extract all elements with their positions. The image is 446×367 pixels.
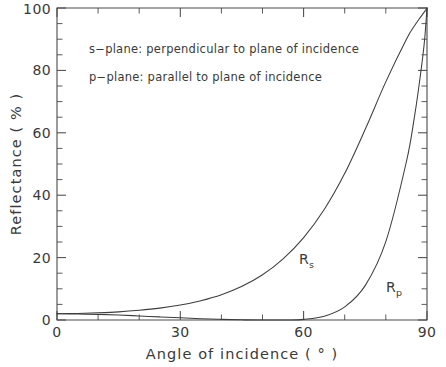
curve-label-rs-base: R	[299, 251, 309, 267]
y-tick-label-0: 0	[42, 312, 51, 328]
y-tick-label-40: 40	[32, 187, 51, 203]
annotation-p-plane: p−plane: parallel to plane of incidence	[89, 70, 322, 84]
x-tick-label-0: 0	[52, 324, 61, 340]
y-axis-tick-labels: 0 20 40 60 80 100	[23, 1, 51, 328]
x-tick-label-90: 90	[418, 324, 437, 340]
curve-label-rs-sub: s	[309, 259, 314, 270]
x-tick-label-60: 60	[294, 324, 313, 340]
curve-label-rs: R s	[299, 251, 314, 270]
x-axis-title: Angle of incidence ( ° )	[146, 346, 339, 362]
reflectance-chart-figure: 0 20 40 60 80 100 0 30 60 90 Angle of in…	[0, 0, 446, 367]
x-axis-tick-labels: 0 30 60 90	[52, 324, 436, 340]
curve-label-rp-sub: p	[396, 287, 402, 298]
annotation-s-plane: s−plane: perpendicular to plane of incid…	[89, 42, 359, 56]
y-axis-minor-ticks	[57, 24, 427, 305]
x-tick-label-30: 30	[171, 324, 190, 340]
chart-svg: 0 20 40 60 80 100 0 30 60 90 Angle of in…	[0, 0, 446, 367]
y-tick-label-80: 80	[32, 62, 51, 78]
y-tick-label-100: 100	[23, 1, 51, 17]
curve-label-rp: R p	[386, 279, 402, 298]
y-tick-label-20: 20	[32, 250, 51, 266]
curve-label-rp-base: R	[386, 279, 396, 295]
y-tick-label-60: 60	[32, 125, 51, 141]
y-axis-title: Reflectance ( % )	[8, 93, 24, 236]
